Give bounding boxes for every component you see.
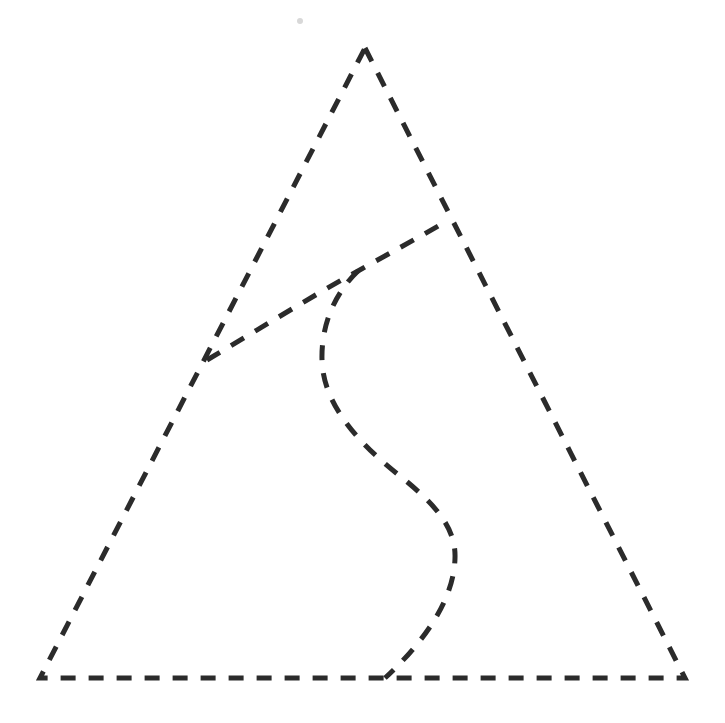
stray-dot-artifact xyxy=(297,18,303,24)
figure-background xyxy=(0,0,725,723)
dashed-triangle-figure xyxy=(0,0,725,723)
figure-root xyxy=(0,0,725,723)
